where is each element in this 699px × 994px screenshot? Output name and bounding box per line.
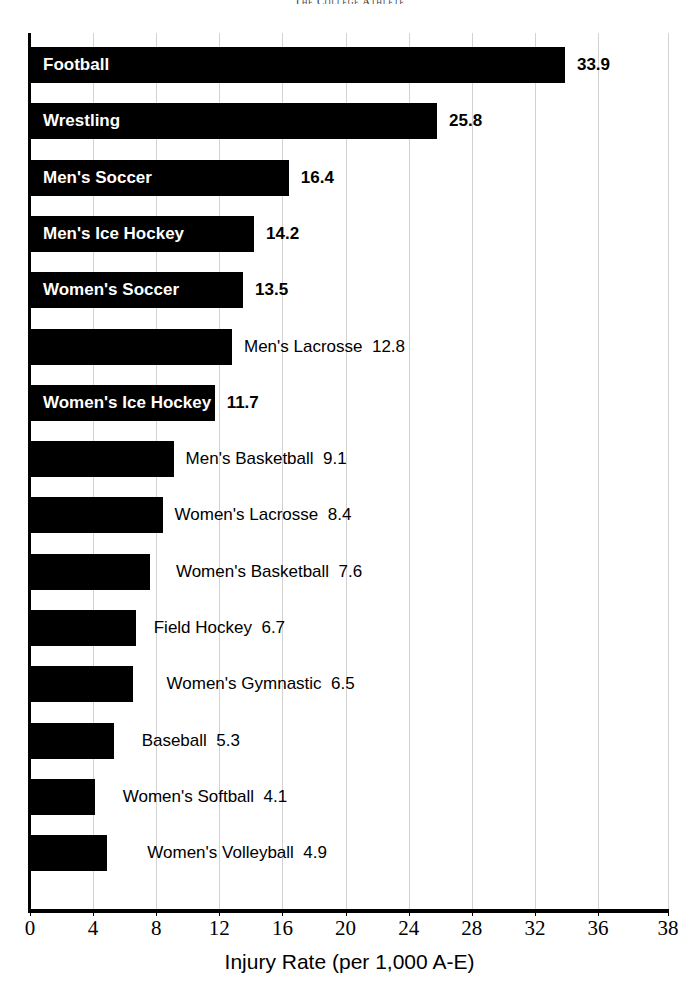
- y-axis-line: [28, 33, 31, 912]
- table-row[interactable]: Men's Soccer16.4: [30, 160, 668, 196]
- table-row[interactable]: Women's Soccer13.5: [30, 272, 668, 308]
- bar-value: 33.9: [565, 47, 610, 83]
- tick-mark-4: [93, 909, 94, 916]
- tick-label-8: 8: [136, 916, 176, 941]
- bar-value: 16.4: [289, 160, 334, 196]
- bar-men-s-lacrosse[interactable]: [30, 329, 232, 365]
- tick-mark-28: [472, 909, 473, 916]
- table-row[interactable]: Women's Ice Hockey11.7: [30, 385, 668, 421]
- table-row[interactable]: Wrestling25.8: [30, 103, 668, 139]
- bar-men-s-basketball[interactable]: [30, 441, 174, 477]
- table-row[interactable]: Women's Gymnastic 6.5: [30, 666, 668, 702]
- tick-label-12: 12: [199, 916, 239, 941]
- tick-mark-24: [409, 909, 410, 916]
- tick-label-16: 16: [262, 916, 302, 941]
- x-axis-line: [28, 909, 668, 913]
- bar-label: Wrestling: [30, 103, 120, 139]
- tick-mark-36: [598, 909, 599, 916]
- table-row[interactable]: Women's Volleyball 4.9: [30, 835, 668, 871]
- bar-label: Women's Basketball 7.6: [164, 554, 362, 590]
- bar-label: Women's Softball 4.1: [111, 779, 288, 815]
- tick-label-36: 36: [578, 916, 618, 941]
- tick-label-32: 32: [515, 916, 555, 941]
- tick-mark-32: [535, 909, 536, 916]
- bar-label: Women's Lacrosse 8.4: [163, 497, 352, 533]
- tick-label-4: 4: [73, 916, 113, 941]
- bar-value: 25.8: [437, 103, 482, 139]
- bar-women-s-volleyball[interactable]: [30, 835, 107, 871]
- table-row[interactable]: Men's Lacrosse 12.8: [30, 329, 668, 365]
- bar-label: Baseball 5.3: [130, 723, 240, 759]
- tick-label-24: 24: [389, 916, 429, 941]
- tick-label-28: 28: [452, 916, 492, 941]
- tick-mark-8: [156, 909, 157, 916]
- table-row[interactable]: Field Hockey 6.7: [30, 610, 668, 646]
- bar-women-s-basketball[interactable]: [30, 554, 150, 590]
- bar-football[interactable]: [30, 47, 565, 83]
- bar-label: Women's Ice Hockey: [30, 385, 211, 421]
- bar-value: 11.7: [215, 385, 259, 421]
- table-row[interactable]: Baseball 5.3: [30, 723, 668, 759]
- table-row[interactable]: Men's Basketball 9.1: [30, 441, 668, 477]
- tick-label-20: 20: [326, 916, 366, 941]
- bar-label: Football: [30, 47, 109, 83]
- bar-women-s-softball[interactable]: [30, 779, 95, 815]
- tick-mark-12: [219, 909, 220, 916]
- bar-field-hockey[interactable]: [30, 610, 136, 646]
- gridline-38: [668, 33, 669, 910]
- bar-baseball[interactable]: [30, 723, 114, 759]
- x-axis-title: Injury Rate (per 1,000 A-E): [0, 950, 699, 974]
- bar-label: Women's Soccer: [30, 272, 179, 308]
- bar-label: Men's Soccer: [30, 160, 152, 196]
- table-row[interactable]: Women's Basketball 7.6: [30, 554, 668, 590]
- bar-women-s-lacrosse[interactable]: [30, 497, 163, 533]
- bar-label: Men's Basketball 9.1: [174, 441, 347, 477]
- bar-women-s-gymnastic[interactable]: [30, 666, 133, 702]
- bar-label: Men's Ice Hockey: [30, 216, 184, 252]
- bar-value: 14.2: [254, 216, 299, 252]
- bar-value: 13.5: [243, 272, 288, 308]
- tick-label-38: 38: [648, 916, 688, 941]
- injury-rate-bar-chart: Football33.9Wrestling25.8Men's Soccer16.…: [0, 0, 699, 994]
- bar-label: Women's Volleyball 4.9: [135, 835, 327, 871]
- table-row[interactable]: Football33.9: [30, 47, 668, 83]
- table-row[interactable]: Men's Ice Hockey14.2: [30, 216, 668, 252]
- bar-label: Field Hockey 6.7: [142, 610, 285, 646]
- table-row[interactable]: Women's Softball 4.1: [30, 779, 668, 815]
- bar-label: Men's Lacrosse 12.8: [232, 329, 405, 365]
- table-row[interactable]: Women's Lacrosse 8.4: [30, 497, 668, 533]
- bar-label: Women's Gymnastic 6.5: [155, 666, 355, 702]
- tick-mark-16: [282, 909, 283, 916]
- tick-mark-38: [668, 909, 669, 916]
- tick-mark-0: [30, 909, 31, 916]
- tick-label-0: 0: [10, 916, 50, 941]
- tick-mark-20: [346, 909, 347, 916]
- plot-area: Football33.9Wrestling25.8Men's Soccer16.…: [30, 33, 680, 910]
